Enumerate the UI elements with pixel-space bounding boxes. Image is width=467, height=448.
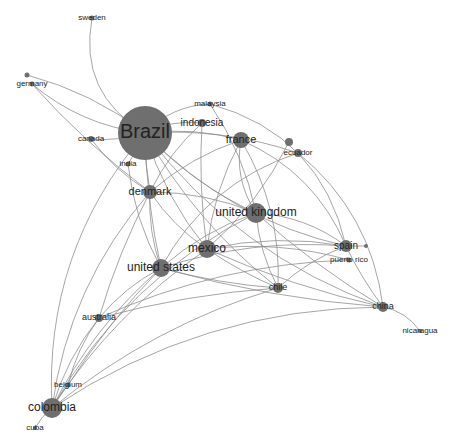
node-spain_dot xyxy=(364,244,368,248)
node-label-puerto_rico: puerto rico xyxy=(330,255,368,264)
edge-denmark-australia xyxy=(99,192,150,318)
edge-brazil-spain xyxy=(145,133,346,246)
node-label-spain: spain xyxy=(334,240,358,251)
edge-indonesia-mexico xyxy=(201,123,207,249)
node-label-mexico: mexico xyxy=(188,241,226,255)
node-label-france: france xyxy=(226,133,257,145)
node-layer xyxy=(25,16,423,431)
node-ecuador_dot xyxy=(285,138,293,146)
edge-united_kingdom-chile xyxy=(256,213,278,288)
node-label-ecuador: ecuador xyxy=(284,148,313,157)
edge-ecuador-china xyxy=(298,153,383,307)
node-label-cuba: cuba xyxy=(26,423,44,432)
edge-chile-australia xyxy=(99,288,278,318)
node-label-indonesia: indonesia xyxy=(181,117,224,128)
node-label-malaysia: malaysia xyxy=(194,99,226,108)
node-label-sweden: sweden xyxy=(78,13,106,22)
node-label-brazil: Brazil xyxy=(120,120,170,142)
node-label-china: china xyxy=(372,301,394,311)
edge-layer xyxy=(27,18,420,428)
node-label-australia: australia xyxy=(82,312,116,322)
graph-canvas: swedengermanyBrazilcanadaindiamalaysiain… xyxy=(0,0,467,448)
node-label-chile: chile xyxy=(269,282,288,292)
edge-spain-chile xyxy=(278,246,346,288)
node-label-india: india xyxy=(120,159,137,168)
node-label-colombia: colombia xyxy=(28,400,76,414)
edge-denmark-colombia xyxy=(52,192,150,408)
node-label-canada: canada xyxy=(78,134,105,143)
node-label-belgium: belgium xyxy=(54,380,82,389)
node-germany_dot xyxy=(25,73,30,78)
node-label-united_states: united states xyxy=(127,260,195,274)
edge-united_states-belgium xyxy=(68,268,161,385)
node-label-denmark: denmark xyxy=(129,185,172,197)
network-graph: swedengermanyBrazilcanadaindiamalaysiain… xyxy=(0,0,467,448)
node-label-germany: germany xyxy=(16,79,47,88)
node-label-united_kingdom: united kingdom xyxy=(215,205,296,219)
node-label-nicaragua: nicaragua xyxy=(402,326,438,335)
